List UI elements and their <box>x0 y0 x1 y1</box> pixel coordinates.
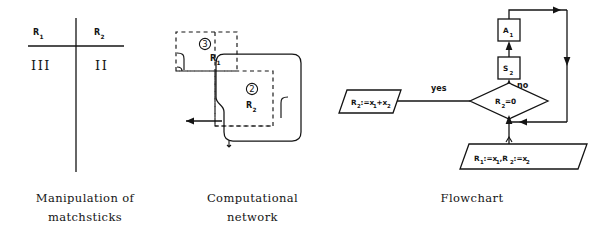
register-r2-label: R <box>94 28 100 37</box>
cell-2-register-label: R 2 <box>246 101 257 113</box>
register-r2-subscript: 2 <box>101 34 105 40</box>
cell-3-label-subscript: 1 <box>217 60 221 66</box>
flowchart-node-init[interactable]: R 1 :=x 1 ,R 2 :=x 2 R1:=x1,R2:=x2 <box>335 0 587 169</box>
s2-box[interactable] <box>498 57 520 79</box>
caption-matchsticks-line2: matchsticks <box>0 212 170 224</box>
test-label-rest: =0 <box>505 97 516 106</box>
matchsticks-r1: III <box>31 58 51 73</box>
svg-text:2: 2 <box>387 103 391 109</box>
cell-3-number: 3 <box>199 38 210 49</box>
panel-network: 3 R 1 2 <box>170 0 335 247</box>
loop-bottom-arrowhead <box>519 119 527 126</box>
cell-2-right-hook <box>281 97 288 118</box>
loop-top-arrowhead <box>553 7 561 14</box>
network-cell-2: 2 R 2 <box>176 32 301 147</box>
caption-matchsticks: Manipulation of matchsticks <box>0 193 170 223</box>
cell-2-label-r: R <box>246 101 252 110</box>
matchsticks-diagram: R 1 R 2 III II <box>0 0 170 190</box>
a1-label: A <box>503 26 509 35</box>
network-output-arrow-icon <box>186 118 222 125</box>
test-label-r: R <box>495 97 501 106</box>
cell-2-solid-outline <box>216 54 301 141</box>
cell-2-label-subscript: 2 <box>253 107 257 113</box>
flowchart-node-test[interactable]: R 2 =0 <box>470 83 548 119</box>
flowchart-node-a1[interactable]: A 1 <box>498 19 520 41</box>
cell-3-dashed-outline <box>176 32 237 71</box>
cell-2-number: 2 <box>246 83 257 94</box>
cell-2-bottom-tail <box>227 141 231 147</box>
register-header-r1: R 1 <box>33 28 44 40</box>
edge-s2-a1-arrowhead <box>506 41 513 50</box>
flowchart-diagram: A 1 S 2 no R 2 =0 <box>335 0 609 190</box>
s2-label: S <box>503 64 508 73</box>
svg-text:2: 2 <box>526 159 530 165</box>
register-r1-label: R <box>33 28 39 37</box>
caption-flowchart: Flowchart <box>335 193 609 205</box>
cell-2-number-text: 2 <box>249 84 254 94</box>
caption-matchsticks-line1: Manipulation of <box>0 193 170 205</box>
flowchart-node-output[interactable]: R 2 :=x 1 +x 2 R2:=x1+x2 <box>335 0 401 113</box>
computational-network-diagram: 3 R 1 2 <box>170 0 335 190</box>
loop-right-arrowhead <box>564 57 571 66</box>
panel-flowchart: A 1 S 2 no R 2 =0 <box>335 0 609 247</box>
register-r1-subscript: 1 <box>40 34 44 40</box>
cell-3-number-text: 3 <box>202 39 207 49</box>
edge-label-yes: yes <box>431 84 447 93</box>
loop-top-segment <box>509 10 567 19</box>
svg-text:,R: ,R <box>500 154 509 163</box>
output-arrow-head <box>186 118 194 125</box>
a1-subscript: 1 <box>510 32 514 38</box>
s2-subscript: 2 <box>510 70 514 76</box>
edge-init-to-test <box>506 115 513 144</box>
caption-network-line1: Computational <box>170 193 335 205</box>
svg-text:+x: +x <box>377 98 388 107</box>
panel-matchsticks: R 1 R 2 III II Manipulation of matchstic… <box>0 0 170 247</box>
network-cell-3: 3 R 1 <box>176 32 237 71</box>
flowchart-node-s2[interactable]: S 2 <box>498 57 520 79</box>
caption-network-line2: network <box>170 212 335 224</box>
matchsticks-r2: II <box>95 58 108 73</box>
caption-network: Computational network <box>170 193 335 223</box>
register-header-r2: R 2 <box>94 28 105 40</box>
caption-flowchart-line1: Flowchart <box>335 193 609 205</box>
cell-3-left-hook-small <box>177 67 182 71</box>
a1-box[interactable] <box>498 19 520 41</box>
